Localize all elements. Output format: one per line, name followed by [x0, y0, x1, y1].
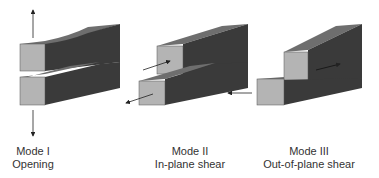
- mode-1-subtitle: Opening: [0, 158, 93, 171]
- mode-3-caption: Mode III Out-of-plane shear: [249, 145, 369, 171]
- mode-1-opening-figure: [20, 10, 120, 136]
- mode-2-in-plane-shear-figure: [126, 24, 252, 105]
- mode-3-subtitle: Out-of-plane shear: [249, 158, 369, 171]
- mode-1-title: Mode I: [0, 145, 93, 158]
- mode-2-title: Mode II: [130, 145, 250, 158]
- mode-3-title: Mode III: [249, 145, 369, 158]
- mode-3-out-of-plane-shear-figure: [257, 24, 362, 105]
- mode-2-subtitle: In-plane shear: [130, 158, 250, 171]
- mode-2-caption: Mode II In-plane shear: [130, 145, 250, 171]
- mode-1-caption: Mode I Opening: [0, 145, 93, 171]
